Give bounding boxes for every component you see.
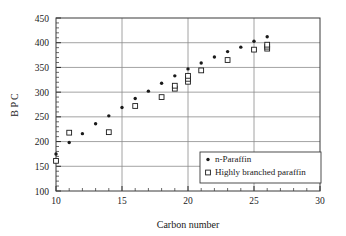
x-tick-label: 25 xyxy=(249,196,259,206)
marker-filled-circle xyxy=(186,67,189,70)
legend-label: n-Paraffin xyxy=(215,154,252,164)
marker-filled-circle xyxy=(81,132,84,135)
legend-marker-filled-circle xyxy=(206,158,209,161)
y-tick-label: 100 xyxy=(35,187,50,197)
y-tick-label: 450 xyxy=(35,14,50,24)
legend-label: Highly branched paraffin xyxy=(215,167,306,177)
x-tick-label: 15 xyxy=(117,196,127,206)
legend-marker-open-square xyxy=(206,170,211,175)
marker-open-square xyxy=(133,104,138,109)
y-tick-label: 350 xyxy=(35,63,50,73)
marker-filled-circle xyxy=(134,97,137,100)
marker-filled-circle xyxy=(226,50,229,53)
y-tick-label: 250 xyxy=(35,112,50,122)
marker-filled-circle xyxy=(147,89,150,92)
y-tick-label: 300 xyxy=(35,88,50,98)
y-tick-label: 200 xyxy=(35,137,50,147)
marker-filled-circle xyxy=(94,122,97,125)
scatter-plot: 1015202530 100150200250300350400450 Carb… xyxy=(0,0,346,236)
marker-filled-circle xyxy=(200,61,203,64)
marker-filled-circle xyxy=(239,45,242,48)
marker-filled-circle xyxy=(107,114,110,117)
chart-legend: n-ParaffinHighly branched paraffin xyxy=(200,152,321,183)
marker-filled-circle xyxy=(266,35,269,38)
marker-open-square xyxy=(265,42,270,47)
marker-filled-circle xyxy=(213,55,216,58)
marker-open-square xyxy=(172,83,177,88)
x-tick-label: 20 xyxy=(183,196,193,206)
marker-open-square xyxy=(225,58,230,63)
marker-filled-circle xyxy=(173,74,176,77)
marker-filled-circle xyxy=(160,82,163,85)
marker-filled-circle xyxy=(120,106,123,109)
marker-filled-circle xyxy=(68,141,71,144)
marker-open-square xyxy=(186,73,191,78)
marker-open-square xyxy=(67,130,72,135)
chart-figure: 1015202530 100150200250300350400450 Carb… xyxy=(0,0,346,236)
marker-filled-circle xyxy=(252,40,255,43)
marker-open-square xyxy=(199,68,204,73)
y-tick-label: 150 xyxy=(35,162,50,172)
marker-open-square xyxy=(159,95,164,100)
x-tick-label: 30 xyxy=(315,196,325,206)
y-axis-title: B P C xyxy=(9,93,20,117)
marker-filled-circle xyxy=(54,152,57,155)
marker-open-square xyxy=(252,47,257,52)
marker-open-square xyxy=(106,130,111,135)
x-tick-label: 10 xyxy=(51,196,61,206)
y-tick-label: 400 xyxy=(35,38,50,48)
x-axis-title: Carbon number xyxy=(157,219,220,230)
marker-open-square xyxy=(54,158,59,163)
